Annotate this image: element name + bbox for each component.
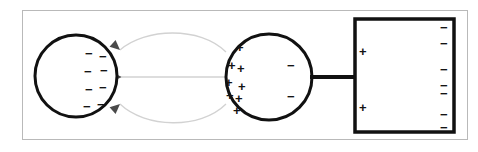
field-line-upper-icon [120, 33, 226, 52]
charge-plus: + [359, 45, 367, 58]
charge-minus: − [287, 59, 295, 72]
charge-minus: − [99, 50, 107, 63]
field-lines-group [120, 33, 226, 123]
diagram-canvas [0, 0, 478, 152]
charge-minus: − [440, 121, 448, 134]
diagram-figure: − − − − − − − − + + + + + + + + − − + + … [0, 0, 478, 152]
charge-minus: − [440, 63, 448, 76]
charge-minus: − [287, 90, 295, 103]
charge-plus: + [359, 101, 367, 114]
charge-minus: − [84, 65, 92, 78]
field-line-lower-icon [120, 104, 226, 123]
charge-minus: − [83, 100, 91, 113]
arrowhead-lower-icon [110, 101, 123, 114]
charge-minus: − [99, 81, 107, 94]
charge-minus: − [100, 64, 108, 77]
arrowhead-upper-icon [110, 40, 123, 53]
charge-minus: − [440, 37, 448, 50]
charge-plus: + [237, 62, 245, 75]
charge-plus: + [233, 104, 241, 117]
charge-minus: − [85, 83, 93, 96]
charge-minus: − [440, 21, 448, 34]
charge-plus: + [228, 59, 236, 72]
charge-minus: − [85, 47, 93, 60]
charge-minus: − [440, 87, 448, 100]
charge-minus: − [97, 98, 105, 111]
charge-plus: + [236, 41, 244, 54]
charge-plus: + [226, 89, 234, 102]
